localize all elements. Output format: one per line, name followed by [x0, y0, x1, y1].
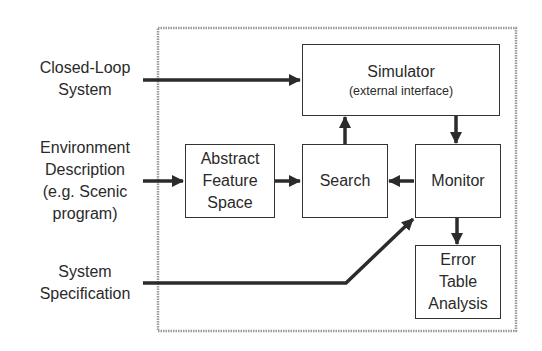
abstract-feature-space-block: Abstract Feature Space	[185, 144, 275, 218]
error-table-analysis-block: Error Table Analysis	[415, 245, 501, 319]
input-environment-description: Environment Description (e.g. Scenic pro…	[20, 137, 150, 225]
input-system-specification: System Specification	[20, 261, 150, 305]
simulator-title: Simulator	[367, 61, 435, 83]
label-line: Feature	[202, 170, 257, 192]
label-line: Environment	[20, 137, 150, 159]
monitor-block: Monitor	[415, 144, 501, 218]
input-closed-loop-system: Closed-Loop System	[20, 57, 150, 101]
search-label: Search	[320, 170, 371, 192]
label-line: Closed-Loop	[20, 57, 150, 79]
label-line: System	[20, 79, 150, 101]
simulator-block: Simulator (external interface)	[302, 44, 500, 116]
label-line: Description	[20, 159, 150, 181]
label-line: Table	[439, 271, 477, 293]
label-line: (e.g. Scenic	[20, 181, 150, 203]
label-line: Specification	[20, 283, 150, 305]
label-line: program)	[20, 203, 150, 225]
label-line: Error	[440, 249, 476, 271]
monitor-label: Monitor	[431, 170, 484, 192]
simulator-subtitle: (external interface)	[349, 83, 453, 99]
label-line: System	[20, 261, 150, 283]
label-line: Abstract	[201, 148, 260, 170]
label-line: Analysis	[428, 293, 488, 315]
label-line: Space	[207, 192, 252, 214]
arrow-spec-to-monitor	[143, 219, 413, 283]
search-block: Search	[302, 144, 388, 218]
